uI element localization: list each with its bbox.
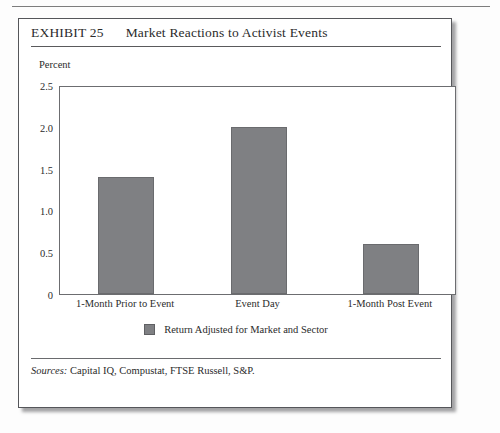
x-axis-labels: 1-Month Prior to Event Event Day 1-Month… <box>59 298 456 314</box>
header-rule <box>31 46 441 47</box>
y-tick-label-2.0: 2.0 <box>40 122 53 133</box>
page-top-rule <box>12 6 490 7</box>
bar-1-month-prior-to-event <box>98 177 154 294</box>
y-axis-title: Percent <box>39 59 71 70</box>
bar-1-month-post-event <box>363 244 419 294</box>
exhibit-header: EXHIBIT 25 Market Reactions to Activist … <box>31 25 441 41</box>
exhibit-title: Market Reactions to Activist Events <box>126 25 328 41</box>
x-axis-label-3: 1-Month Post Event <box>348 298 433 309</box>
x-axis-label-1: 1-Month Prior to Event <box>76 298 174 309</box>
y-axis-tick-labels: 2.5 2.0 1.5 1.0 0.5 0 <box>25 86 53 295</box>
source-text: Capital IQ, Compustat, FTSE Russell, S&P… <box>67 365 254 376</box>
y-tick-label-1.5: 1.5 <box>40 164 53 175</box>
source-rule <box>31 358 441 359</box>
exhibit-box: EXHIBIT 25 Market Reactions to Activist … <box>18 18 452 408</box>
y-tick-label-1.0: 1.0 <box>40 206 53 217</box>
legend-color-swatch <box>144 324 155 335</box>
source-label: Sources: <box>31 365 67 376</box>
legend-label: Return Adjusted for Market and Sector <box>164 324 328 335</box>
scanned-page: EXHIBIT 25 Market Reactions to Activist … <box>0 0 500 433</box>
y-tick-label-0: 0 <box>48 290 53 301</box>
x-axis-label-2: Event Day <box>235 298 280 309</box>
bar-event-day <box>231 127 287 294</box>
source-note: Sources: Capital IQ, Compustat, FTSE Rus… <box>31 365 255 376</box>
plot-area <box>59 86 456 295</box>
exhibit-inner: EXHIBIT 25 Market Reactions to Activist … <box>19 19 451 407</box>
y-tick-label-0.5: 0.5 <box>40 248 53 259</box>
y-tick-label-2.5: 2.5 <box>40 81 53 92</box>
exhibit-number: EXHIBIT 25 <box>31 25 104 41</box>
chart-legend: Return Adjusted for Market and Sector <box>19 324 453 335</box>
